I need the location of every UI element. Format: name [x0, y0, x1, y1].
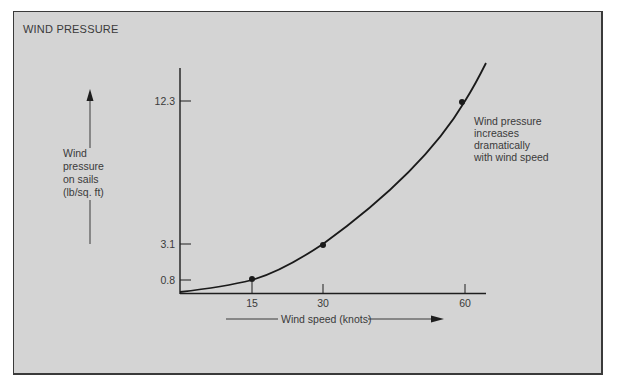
svg-text:3.1: 3.1 — [160, 238, 175, 250]
y-tick-0.8: 0.8 — [160, 274, 191, 286]
x-axis-label: Wind speed (knots) — [226, 313, 444, 325]
y-tick-12.3: 12.3 — [155, 95, 191, 107]
svg-text:12.3: 12.3 — [155, 95, 176, 107]
svg-text:pressure: pressure — [63, 160, 104, 172]
wind-pressure-curve — [180, 63, 486, 292]
svg-text:Wind speed (knots): Wind speed (knots) — [281, 313, 371, 325]
svg-text:60: 60 — [459, 297, 471, 309]
data-point-15 — [249, 276, 255, 282]
svg-text:0.8: 0.8 — [160, 274, 175, 286]
svg-text:Wind pressure: Wind pressure — [474, 115, 542, 127]
x-tick-30: 30 — [317, 284, 329, 309]
y-axis-label: Wind pressure on sails (lb/sq. ft) — [63, 89, 104, 244]
x-tick-60: 60 — [459, 284, 471, 309]
svg-text:15: 15 — [246, 297, 258, 309]
chart-canvas: 12.3 3.1 0.8 15 30 60 Wind pressure on s… — [0, 0, 617, 386]
arrow-up-icon — [87, 89, 94, 101]
svg-text:increases: increases — [474, 127, 519, 139]
x-tick-15: 15 — [246, 282, 258, 309]
data-point-30 — [320, 242, 326, 248]
svg-text:dramatically: dramatically — [474, 139, 531, 151]
arrow-right-icon — [431, 316, 444, 323]
y-tick-3.1: 3.1 — [160, 238, 191, 250]
curve-annotation: Wind pressure increases dramatically wit… — [473, 115, 549, 163]
svg-text:(lb/sq. ft): (lb/sq. ft) — [63, 186, 104, 198]
svg-text:Wind: Wind — [63, 147, 87, 159]
svg-text:on sails: on sails — [63, 173, 99, 185]
svg-text:30: 30 — [317, 297, 329, 309]
svg-text:with wind speed: with wind speed — [473, 151, 549, 163]
data-point-60 — [459, 99, 465, 105]
